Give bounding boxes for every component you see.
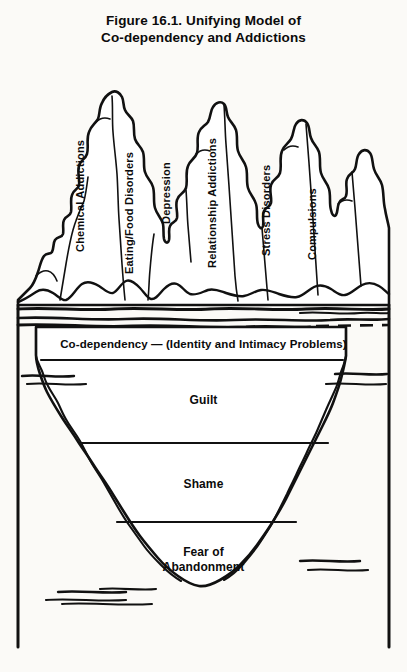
- underwater-wave-bottom-left-4: [62, 603, 152, 604]
- band-label-fear-of-abandonment: Fear of Abandonment: [0, 545, 407, 575]
- peak-label-compulsions: Compulsions: [306, 188, 318, 260]
- underwater-wave-right-1: [335, 373, 387, 374]
- band-label-guilt: Guilt: [0, 393, 407, 407]
- band-label-fear-line-2: Abandonment: [163, 560, 245, 574]
- peak-label-relationship-addictions: Relationship Addictions: [206, 138, 218, 268]
- underwater-wave-bottom-left-3: [100, 588, 156, 589]
- underwater-wave-left-1: [22, 375, 74, 376]
- peak-label-eating-food-disorders: Eating/Food Disorders: [123, 152, 135, 274]
- peak-label-chemical-addictions: Chemical Addictions: [74, 140, 86, 252]
- peak-label-depression: Depression: [160, 162, 172, 224]
- underwater-wave-right-2: [326, 383, 386, 384]
- water-line-4: [300, 312, 389, 313]
- underwater-wave-left-2: [27, 383, 86, 384]
- underwater-wave-bottom-left-2: [46, 599, 126, 600]
- peak-label-stress-disorders: Stress Disorders: [260, 165, 272, 256]
- water-line-2: [18, 318, 389, 321]
- water-line-1: [18, 308, 389, 309]
- band-label-shame: Shame: [0, 477, 407, 491]
- band-label-fear-line-1: Fear of: [183, 545, 224, 559]
- underwater-wave-bottom-left-1: [58, 591, 126, 592]
- figure-root: Figure 16.1. Unifying Model of Co-depend…: [0, 0, 407, 672]
- band-label-codependency: Co-dependency — (Identity and Intimacy P…: [0, 338, 407, 350]
